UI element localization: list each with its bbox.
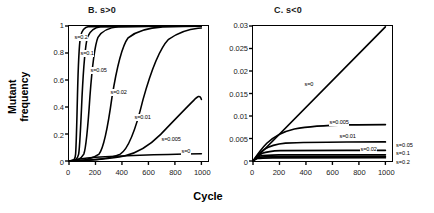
curve-c-s-0 [253, 27, 385, 161]
panel-b-label-s-0.01: s=0.01 [134, 114, 151, 121]
panel-c-right-label-s-0.05: s=0.05 [396, 141, 413, 149]
panel-c-title: C. s<0 [274, 5, 302, 15]
panel-c-label-s-0.02: s=0.02 [360, 146, 377, 153]
panel-c-label-s-0.01: s=0.01 [339, 133, 356, 140]
panel-c-ytick-0.015: 0.015 [216, 89, 248, 98]
panel-b-curves [69, 26, 208, 161]
panel-b-label-s-0.2: s=0.2 [74, 34, 88, 41]
y-axis-title-line1: Mutant [6, 80, 18, 114]
panel-c-ytick-0.03: 0.03 [216, 21, 248, 30]
panel-c-xtick-400: 400 [299, 168, 312, 177]
curve-c-s-0.2 [253, 158, 385, 161]
panel-c-xtick-1000: 1000 [378, 168, 395, 177]
panel-c-xtick-0: 0 [250, 168, 254, 177]
curve-s-0.01 [69, 28, 201, 161]
y-axis-title: Mutant frequency [7, 62, 31, 132]
panel-b-label-s-0.05: s=0.05 [90, 67, 107, 74]
panel-b-xtick-600: 600 [142, 168, 155, 177]
panel-c-label-s-0: s=0 [304, 81, 314, 88]
y-axis-title-line2: frequency [18, 72, 30, 122]
panel-c-ytick-0.025: 0.025 [216, 43, 248, 52]
panel-c-ytick-0.02: 0.02 [216, 66, 248, 75]
panel-c-negative-selection: C. s<0 0.03 0.025 0.02 0.015 0.01 0.005 … [216, 0, 434, 213]
panel-b-positive-selection: B. s>0 Mutant frequency 1 0.8 0.6 0.4 0.… [0, 0, 216, 213]
panel-c-ytick-0.005: 0.005 [216, 135, 248, 144]
panel-c-ytick-0: 0 [216, 158, 248, 167]
panel-c-xtick-800: 800 [353, 168, 366, 177]
panel-b-ytick-0: 0 [42, 158, 64, 167]
curve-s-0.1 [69, 26, 201, 161]
panel-b-xtick-800: 800 [169, 168, 182, 177]
panel-c-right-label-s-0.2: s=0.2 [396, 158, 413, 166]
panel-c-xtick-200: 200 [273, 168, 286, 177]
panel-b-xtick-200: 200 [89, 168, 102, 177]
panel-b-label-s-0.1: s=0.1 [80, 50, 94, 57]
panel-b-xtick-1000: 1000 [194, 168, 211, 177]
x-axis-title: Cycle [193, 190, 222, 202]
panel-b-ytick-0.4: 0.4 [42, 103, 64, 112]
panel-b-ytick-0.2: 0.2 [42, 130, 64, 139]
panel-b-label-s-0.005: s=0.005 [161, 136, 181, 143]
curve-s-0.2 [69, 26, 201, 161]
panel-c-label-s-0.005: s=0.005 [329, 119, 349, 126]
panel-b-label-s-0: s=0 [181, 148, 191, 155]
panel-b-title: B. s>0 [88, 5, 116, 15]
panel-b-xtick-400: 400 [115, 168, 128, 177]
panel-b-ytick-1: 1 [42, 21, 64, 30]
panel-c-xtick-600: 600 [326, 168, 339, 177]
panel-c-right-legend: s=0.05 s=0.1 s=0.2 [396, 141, 413, 166]
panel-b-ytick-0.8: 0.8 [42, 48, 64, 57]
panel-c-plot-area: s=0 s=0.005 s=0.01 s=0.02 [252, 25, 393, 162]
panel-c-curves [253, 26, 392, 161]
panel-b-ytick-0.6: 0.6 [42, 75, 64, 84]
curve-s-0.05 [69, 26, 201, 161]
figure-container: B. s>0 Mutant frequency 1 0.8 0.6 0.4 0.… [0, 0, 434, 213]
curve-s-0.02 [69, 26, 201, 161]
panel-b-xtick-0: 0 [66, 168, 70, 177]
panel-b-label-s-0.02: s=0.02 [110, 89, 127, 96]
panel-c-ytick-0.01: 0.01 [216, 112, 248, 121]
panel-c-right-label-s-0.1: s=0.1 [396, 149, 413, 157]
panel-b-plot-area: s=0.2 s=0.1 s=0.05 s=0.02 s=0.01 s=0.005… [68, 25, 209, 162]
